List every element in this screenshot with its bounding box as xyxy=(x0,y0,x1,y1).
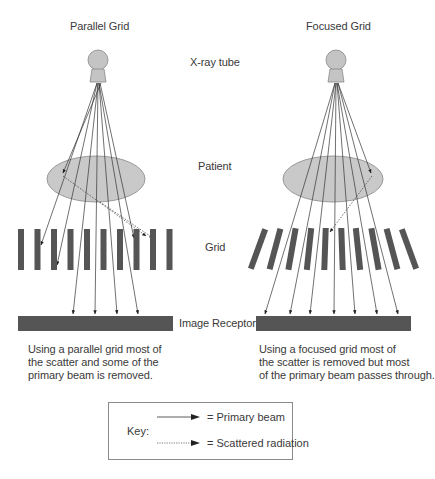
parallel-grid-title: Parallel Grid xyxy=(70,20,129,32)
parallel-grid-panel xyxy=(18,50,173,331)
patient-ellipse-right xyxy=(283,156,383,202)
parallel-grid-bars xyxy=(18,229,173,270)
image-receptor-right xyxy=(256,316,411,331)
xray-tube-icon-left xyxy=(88,50,108,82)
patient-ellipse-left xyxy=(47,156,145,202)
focused-grid-caption: Using a focused grid most of the scatter… xyxy=(259,343,435,382)
legend-box: Key: = Primary beam = Scattered radiatio… xyxy=(108,402,293,460)
focused-grid-panel xyxy=(248,50,419,331)
caption-line: of the primary beam passes through. xyxy=(259,369,435,382)
caption-line: primary beam is removed. xyxy=(28,369,161,382)
legend-primary-text: = Primary beam xyxy=(207,411,285,423)
caption-line: Using a focused grid most of xyxy=(259,343,435,356)
xray-tube-icon-right xyxy=(326,50,346,82)
solid-arrow-icon xyxy=(157,412,201,422)
legend-item-scatter: = Scattered radiation xyxy=(157,436,309,450)
dotted-arrow-icon xyxy=(157,438,201,448)
caption-line: Using a parallel grid most of xyxy=(28,343,161,356)
legend-scatter-text: = Scattered radiation xyxy=(207,437,309,449)
image-receptor-label: Image Receptor xyxy=(179,317,256,329)
image-receptor-left xyxy=(18,316,173,331)
focused-grid-bars xyxy=(248,228,419,270)
parallel-grid-caption: Using a parallel grid most of the scatte… xyxy=(28,343,161,382)
legend-title: Key: xyxy=(127,425,149,437)
grid-label: Grid xyxy=(205,241,225,253)
legend-item-primary: = Primary beam xyxy=(157,410,285,424)
caption-line: the scatter is removed but most xyxy=(259,356,435,369)
xray-tube-label: X-ray tube xyxy=(190,56,240,68)
focused-grid-title: Focused Grid xyxy=(306,20,371,32)
caption-line: the scatter and some of the xyxy=(28,356,161,369)
patient-label: Patient xyxy=(198,160,232,172)
